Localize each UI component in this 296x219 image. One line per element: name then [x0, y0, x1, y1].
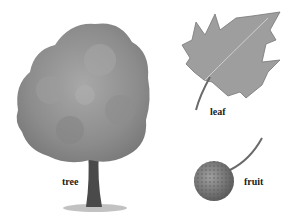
leaf-label: leaf: [210, 106, 226, 117]
fruit-label: fruit: [244, 176, 263, 187]
tree-illustration: [17, 23, 150, 212]
tree-label: tree: [62, 176, 78, 187]
leaf-illustration: [182, 12, 280, 110]
fruit-illustration: [194, 138, 262, 201]
